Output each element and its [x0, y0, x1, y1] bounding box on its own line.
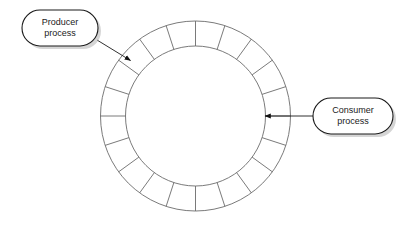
- producer-process-node[interactable]: Producerprocess: [22, 10, 101, 49]
- node-label-line2: process: [337, 116, 369, 126]
- circular-buffer-ring: [101, 21, 291, 211]
- node-label-line1: Consumer: [332, 105, 374, 115]
- node-label-line1: Producer: [42, 17, 79, 27]
- diagram-canvas: ProducerprocessConsumerprocess: [0, 0, 405, 225]
- producer-to-buffer-arrow: [97, 40, 131, 61]
- node-label-line2: process: [44, 28, 76, 38]
- consumer-process-node[interactable]: Consumerprocess: [313, 98, 396, 137]
- circular-buffer-diagram: ProducerprocessConsumerprocess: [0, 0, 405, 225]
- ring-inner-circle: [126, 46, 266, 186]
